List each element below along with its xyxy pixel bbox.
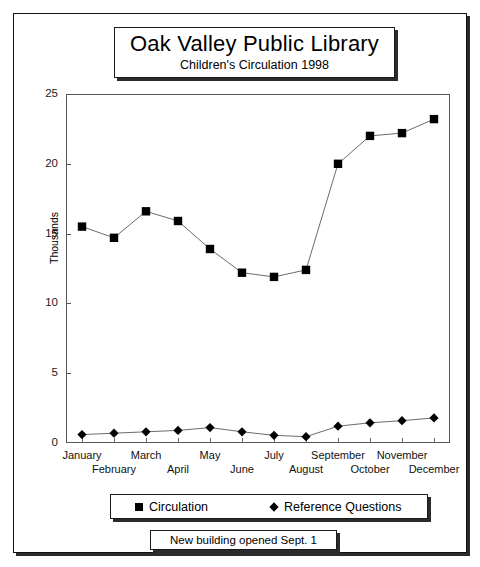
- legend: Circulation Reference Questions: [110, 494, 428, 519]
- x-axis-tick-mark: [114, 438, 115, 443]
- x-axis-tick-label: May: [200, 449, 221, 461]
- x-axis-tick-mark: [146, 438, 147, 443]
- y-axis-tick-label: 0: [32, 437, 58, 448]
- x-axis-tick-label: November: [377, 449, 428, 461]
- x-axis-tick-label: August: [289, 463, 323, 475]
- x-axis-tick-mark: [402, 438, 403, 443]
- plot-area: [66, 94, 450, 443]
- x-axis-tick-mark: [242, 438, 243, 443]
- diamond-marker-icon: [269, 502, 278, 511]
- x-axis-tick-label: April: [167, 463, 189, 475]
- chart-screenshot: Oak Valley Public Library Children's Cir…: [0, 0, 480, 567]
- x-axis-tick-mark: [210, 438, 211, 443]
- x-axis-tick-label: February: [92, 463, 136, 475]
- x-axis-tick-mark: [306, 438, 307, 443]
- x-axis-tick-mark: [434, 438, 435, 443]
- y-axis-tick-mark: [66, 373, 71, 374]
- x-axis-tick-mark: [274, 438, 275, 443]
- footnote-box: New building opened Sept. 1: [150, 530, 337, 550]
- x-axis-tick-label: January: [62, 449, 101, 461]
- x-axis-tick-label: July: [264, 449, 284, 461]
- legend-item-circulation: Circulation: [135, 500, 208, 514]
- x-axis-tick-mark: [178, 438, 179, 443]
- legend-item-reference-questions: Reference Questions: [270, 500, 401, 514]
- x-axis-tick-mark: [370, 438, 371, 443]
- x-axis-tick-label: March: [131, 449, 162, 461]
- y-axis-tick-label: 5: [32, 367, 58, 378]
- y-axis-tick-label: 10: [32, 297, 58, 308]
- plot-wrapper: Thousands 0510152025JanuaryFebruaryMarch…: [0, 0, 480, 567]
- y-axis-tick-mark: [66, 303, 71, 304]
- y-axis-tick-mark: [66, 234, 71, 235]
- y-axis-tick-label: 25: [32, 88, 58, 99]
- y-axis-tick-mark: [66, 164, 71, 165]
- x-axis-tick-label: December: [409, 463, 460, 475]
- x-axis-tick-label: September: [311, 449, 365, 461]
- x-axis-tick-label: October: [350, 463, 389, 475]
- square-marker-icon: [135, 503, 143, 511]
- y-axis-tick-label: 20: [32, 158, 58, 169]
- legend-label-reference-questions: Reference Questions: [284, 500, 401, 514]
- x-axis-tick-mark: [338, 438, 339, 443]
- x-axis-tick-label: June: [230, 463, 254, 475]
- legend-label-circulation: Circulation: [149, 500, 208, 514]
- y-axis-tick-label: 15: [32, 228, 58, 239]
- x-axis-tick-mark: [82, 438, 83, 443]
- footnote-text: New building opened Sept. 1: [170, 534, 317, 546]
